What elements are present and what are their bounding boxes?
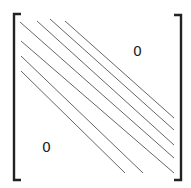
upper-zero-label: 0 xyxy=(133,43,142,59)
lower-zero-label: 0 xyxy=(42,139,51,155)
left-bracket xyxy=(14,14,21,180)
band-line xyxy=(65,21,174,118)
band-line xyxy=(37,21,174,145)
banded-matrix-diagram: 0 0 xyxy=(0,0,191,188)
right-bracket xyxy=(174,15,181,180)
band-line xyxy=(20,22,174,158)
band-line xyxy=(50,19,174,130)
